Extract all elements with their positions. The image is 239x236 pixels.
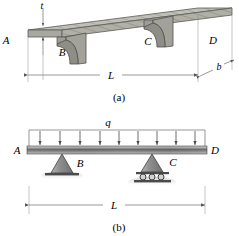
label-a-point-d: D xyxy=(208,34,217,46)
engineering-figure: A B C D t L b (a) q A B C D L (b) xyxy=(0,0,239,236)
figure-container: A B C D t L b (a) q A B C D L (b) xyxy=(0,0,239,236)
support-b-triangle xyxy=(51,154,73,173)
caption-a: (a) xyxy=(113,91,126,104)
beam xyxy=(27,146,207,154)
label-a-point-c: C xyxy=(144,35,152,47)
shelf-front-edge-left xyxy=(28,30,62,37)
support-c-triangle xyxy=(141,154,163,172)
label-b-point-c: C xyxy=(169,156,177,168)
label-a-point-b: B xyxy=(59,46,66,58)
roller xyxy=(140,174,146,180)
panel-a xyxy=(28,8,234,82)
beam-body xyxy=(27,146,207,154)
load-arrows xyxy=(40,131,195,145)
label-thickness-t: t xyxy=(41,0,44,11)
label-length-l-b: L xyxy=(110,199,117,211)
support-c-base xyxy=(134,180,171,182)
b-right-arrow xyxy=(224,60,234,64)
shelf-slab xyxy=(28,8,232,37)
label-b-point-a: A xyxy=(13,144,21,156)
label-load-q: q xyxy=(105,116,111,128)
label-depth-b: b xyxy=(217,61,222,72)
roller xyxy=(149,174,155,180)
support-b-base xyxy=(45,173,79,175)
label-a-point-a: A xyxy=(2,34,10,46)
label-length-l-a: L xyxy=(107,69,114,81)
label-b-point-d: D xyxy=(210,144,219,156)
roller xyxy=(158,174,164,180)
b-left-arrow xyxy=(200,70,213,76)
label-b-point-b: B xyxy=(77,157,84,169)
caption-b: (b) xyxy=(113,221,126,234)
